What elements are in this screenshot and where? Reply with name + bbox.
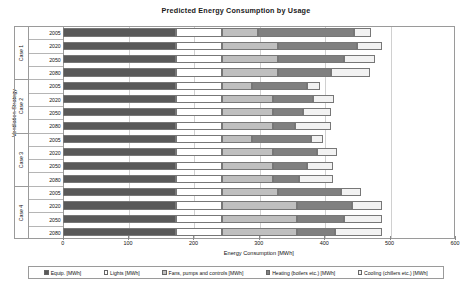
bar-segment[interactable] [258,28,355,36]
legend-item[interactable]: Cooling (chillers etc.) [MWh] [358,270,428,276]
stacked-bar[interactable] [63,82,320,90]
bar-segment[interactable] [63,175,176,183]
bar-segment[interactable] [63,228,176,236]
bar-segment[interactable] [63,201,176,209]
bar-segment[interactable] [176,215,222,223]
bar-segment[interactable] [252,82,306,90]
bar-segment[interactable] [295,122,331,130]
stacked-bar[interactable] [63,55,376,63]
bar-segment[interactable] [63,108,176,116]
bar-segment[interactable] [299,175,333,183]
bar-segment[interactable] [176,95,222,103]
bar-segment[interactable] [222,175,273,183]
bar-segment[interactable] [344,215,382,223]
bar-segment[interactable] [335,228,382,236]
bar-segment[interactable] [354,28,371,36]
stacked-bar[interactable] [63,148,337,156]
bar-segment[interactable] [341,188,362,196]
bar-segment[interactable] [278,55,343,63]
bar-segment[interactable] [176,122,222,130]
bar-segment[interactable] [63,122,176,130]
bar-segment[interactable] [222,201,297,209]
stacked-bar[interactable] [63,95,334,103]
bar-segment[interactable] [222,55,279,63]
stacked-bar[interactable] [63,42,382,50]
bar-segment[interactable] [273,95,314,103]
bar-segment[interactable] [278,42,356,50]
bar-segment[interactable] [222,95,273,103]
bar-segment[interactable] [222,82,253,90]
bar-segment[interactable] [222,28,258,36]
legend-item[interactable]: Equip. [MWh] [44,270,81,276]
stacked-bar[interactable] [63,68,370,76]
bar-segment[interactable] [273,162,307,170]
bar-segment[interactable] [176,55,222,63]
bar-segment[interactable] [176,201,222,209]
bar-segment[interactable] [278,188,340,196]
bar-segment[interactable] [176,148,222,156]
bar-segment[interactable] [222,162,273,170]
bar-segment[interactable] [176,175,222,183]
bar-segment[interactable] [297,228,335,236]
bar-segment[interactable] [222,215,297,223]
bar-segment[interactable] [344,55,375,63]
bar-segment[interactable] [222,188,279,196]
bar-segment[interactable] [63,28,176,36]
bar-segment[interactable] [176,162,222,170]
bar-segment[interactable] [176,42,222,50]
stacked-bar[interactable] [63,122,332,130]
bar-segment[interactable] [307,162,333,170]
bar-segment[interactable] [176,28,222,36]
bar-segment[interactable] [176,68,222,76]
bar-segment[interactable] [352,201,381,209]
legend-item[interactable]: Fans, pumps and controls [MWh] [162,270,243,276]
bar-segment[interactable] [63,215,176,223]
stacked-bar[interactable] [63,175,333,183]
bar-segment[interactable] [297,215,344,223]
stacked-bar[interactable] [63,215,382,223]
stacked-bar[interactable] [63,108,331,116]
bar-segment[interactable] [273,175,299,183]
legend-item[interactable]: Lights [MWh] [104,270,140,276]
bar-segment[interactable] [252,135,311,143]
bar-segment[interactable] [63,188,176,196]
bar-segment[interactable] [176,228,222,236]
bar-segment[interactable] [222,148,273,156]
stacked-bar[interactable] [63,188,362,196]
bar-segment[interactable] [63,162,176,170]
stacked-bar[interactable] [63,201,382,209]
bar-segment[interactable] [63,42,176,50]
bar-segment[interactable] [176,188,222,196]
bar-segment[interactable] [63,82,176,90]
bar-segment[interactable] [273,108,304,116]
bar-segment[interactable] [176,135,222,143]
stacked-bar[interactable] [63,228,382,236]
legend-item[interactable]: Heating (boilers etc.) [MWh] [266,270,336,276]
bar-segment[interactable] [222,122,273,130]
bar-segment[interactable] [222,108,273,116]
bar-segment[interactable] [357,42,382,50]
bar-segment[interactable] [278,68,330,76]
bar-segment[interactable] [317,148,337,156]
bar-segment[interactable] [222,135,253,143]
bar-segment[interactable] [176,82,222,90]
bar-segment[interactable] [63,68,176,76]
bar-segment[interactable] [311,135,323,143]
stacked-bar[interactable] [63,28,372,36]
bar-segment[interactable] [297,201,353,209]
bar-segment[interactable] [273,148,317,156]
bar-segment[interactable] [222,68,279,76]
bar-segment[interactable] [313,95,334,103]
bar-segment[interactable] [63,95,176,103]
bar-segment[interactable] [222,42,279,50]
bar-segment[interactable] [63,55,176,63]
bar-segment[interactable] [303,108,330,116]
stacked-bar[interactable] [63,162,333,170]
stacked-bar[interactable] [63,135,323,143]
bar-segment[interactable] [331,68,370,76]
bar-segment[interactable] [63,148,176,156]
bar-segment[interactable] [176,108,222,116]
bar-segment[interactable] [307,82,320,90]
bar-segment[interactable] [273,122,296,130]
bar-segment[interactable] [63,135,176,143]
